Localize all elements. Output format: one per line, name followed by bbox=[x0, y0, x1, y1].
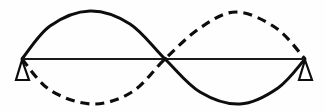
midspan-node-dot bbox=[163, 57, 167, 61]
mode-shape-figure bbox=[0, 0, 326, 112]
figure-canvas bbox=[0, 0, 326, 112]
